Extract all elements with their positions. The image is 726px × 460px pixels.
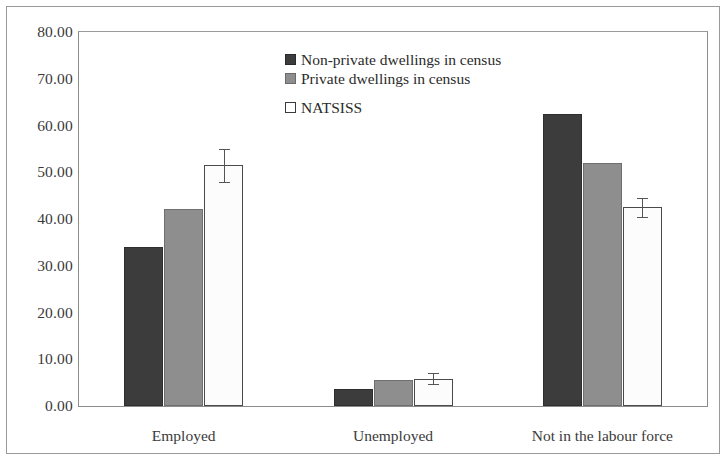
y-axis-tick-label: 40.00: [9, 211, 73, 227]
error-bar-line: [642, 198, 643, 217]
y-axis-tick-label: 80.00: [9, 24, 73, 40]
y-axis: 80.0070.0060.0050.0040.0030.0020.0010.00…: [7, 7, 73, 460]
bar: [583, 163, 622, 406]
chart-outer-frame: 80.0070.0060.0050.0040.0030.0020.0010.00…: [6, 6, 720, 454]
legend-item-natsiss: NATSISS: [285, 99, 535, 116]
bar: [543, 114, 582, 406]
legend-item-non-private: Non-private dwellings in census: [285, 51, 535, 68]
gray-square-icon: [285, 73, 296, 84]
chart-legend: Non-private dwellings in census Private …: [285, 51, 535, 118]
error-bar-cap-upper: [637, 198, 648, 199]
x-axis-category-label: Employed: [74, 428, 294, 444]
x-axis-category-label: Not in the labour force: [492, 428, 712, 444]
error-bar-cap-lower: [428, 384, 439, 385]
y-axis-tick-label: 10.00: [9, 351, 73, 367]
error-bar-cap-lower: [219, 182, 230, 183]
legend-label: Non-private dwellings in census: [285, 51, 535, 68]
bar: [374, 380, 413, 406]
y-axis-tick-label: 50.00: [9, 164, 73, 180]
y-axis-tick-label: 30.00: [9, 258, 73, 274]
legend-item-private: Private dwellings in census: [285, 70, 535, 87]
y-axis-tick-label: 70.00: [9, 71, 73, 87]
y-axis-tick-label: 0.00: [9, 398, 73, 414]
y-axis-tick-label: 20.00: [9, 305, 73, 321]
white-square-icon: [285, 102, 296, 113]
error-bar-cap-upper: [219, 149, 230, 150]
bar: [334, 389, 373, 406]
y-axis-tick-label: 60.00: [9, 118, 73, 134]
legend-label: NATSISS: [285, 99, 535, 116]
legend-label: Private dwellings in census: [285, 70, 535, 87]
error-bar-line: [224, 149, 225, 182]
bar: [204, 165, 243, 406]
error-bar-cap-lower: [637, 217, 648, 218]
bar: [164, 209, 203, 406]
bar: [623, 207, 662, 406]
error-bar-line: [433, 373, 434, 384]
x-axis-category-label: Unemployed: [283, 428, 503, 444]
dark-square-icon: [285, 54, 296, 65]
error-bar-cap-upper: [428, 373, 439, 374]
bar: [124, 247, 163, 406]
